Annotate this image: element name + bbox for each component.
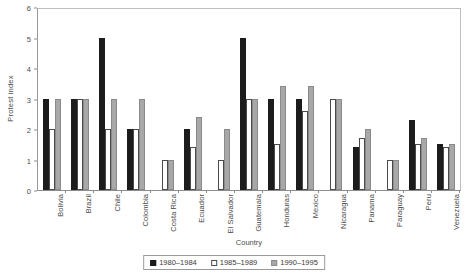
chart-legend: 1980–19841985–19891990–1995 — [143, 255, 325, 270]
x-axis-tick-label: Bolivia — [56, 194, 65, 217]
bar-group — [66, 9, 94, 190]
bar-group — [263, 9, 291, 190]
legend-label: 1980–1984 — [159, 258, 197, 267]
bar-group — [122, 9, 150, 190]
y-axis-tick-1: 1 — [27, 156, 31, 165]
bar-group — [151, 9, 179, 190]
x-axis-tick-9: Mexico — [291, 194, 319, 238]
legend-swatch-icon — [211, 260, 217, 266]
legend-item[interactable]: 1990–1995 — [271, 258, 318, 267]
x-axis-tick-14: Venezuela — [433, 194, 461, 238]
bar — [336, 99, 342, 191]
legend-item[interactable]: 1985–1989 — [211, 258, 258, 267]
y-axis-tick-6: 6 — [27, 4, 31, 13]
y-axis-tick-4: 4 — [27, 65, 31, 74]
x-axis-tick-label: Nicaragua — [338, 194, 347, 229]
bars-layer — [38, 9, 460, 190]
legend-label: 1985–1989 — [220, 258, 258, 267]
x-axis-tick-2: Chile — [94, 194, 122, 238]
x-axis-tick-8: Honduras — [263, 194, 291, 238]
legend-label: 1990–1995 — [280, 258, 318, 267]
x-axis-tick-3: Colombia — [122, 194, 150, 238]
x-axis-tick-7: Guatemala — [235, 194, 263, 238]
x-axis-tick-label: Paraguay — [395, 194, 404, 227]
x-axis-tick-label: El Salvador — [225, 194, 234, 233]
bar — [111, 99, 117, 191]
bar — [393, 160, 399, 191]
bar — [139, 99, 145, 191]
y-axis-title-label: Protest index — [6, 75, 15, 121]
bar — [421, 138, 427, 190]
x-axis-tick-6: El Salvador — [207, 194, 235, 238]
x-axis-tick-1: Brazil — [65, 194, 93, 238]
x-axis-tick-label: Chile — [112, 194, 121, 212]
bar — [308, 86, 314, 190]
bar — [168, 160, 174, 191]
bar — [83, 99, 89, 191]
x-axis-tick-13: Peru — [404, 194, 432, 238]
y-axis-tick-5: 5 — [27, 34, 31, 43]
x-axis-title: Country — [37, 238, 461, 247]
x-axis-tick-label: Costa Rica — [169, 194, 178, 232]
y-axis-tick-3: 3 — [27, 95, 31, 104]
x-axis-tick-label: Ecuador — [197, 194, 206, 223]
protest-index-bar-chart: Protest index 0123456 BoliviaBrazilChile… — [0, 0, 468, 278]
x-axis-tick-label: Venezuela — [451, 194, 460, 230]
x-axis-tick-10: Nicaragua — [320, 194, 348, 238]
bar-group — [38, 9, 66, 190]
x-axis-tick-label: Colombia — [140, 194, 149, 226]
y-axis-tick-labels: 0123456 — [18, 8, 34, 191]
x-axis-tick-11: Panama — [348, 194, 376, 238]
bar-group — [319, 9, 347, 190]
x-axis-tick-0: Bolivia — [37, 194, 65, 238]
bar-group — [376, 9, 404, 190]
bar — [196, 117, 202, 190]
x-axis-tick-label: Mexico — [310, 194, 319, 218]
bar — [365, 129, 371, 190]
x-axis-tick-4: Costa Rica — [150, 194, 178, 238]
plot-area — [37, 8, 461, 191]
legend-swatch-icon — [271, 260, 277, 266]
x-axis-tick-label: Guatemala — [253, 194, 262, 232]
y-axis-tick-2: 2 — [27, 126, 31, 135]
x-axis-tick-label: Brazil — [84, 194, 93, 213]
x-axis-tick-label: Honduras — [282, 194, 291, 227]
legend-item[interactable]: 1980–1984 — [150, 258, 197, 267]
bar-group — [432, 9, 460, 190]
bar-group — [291, 9, 319, 190]
y-axis-title: Protest index — [2, 0, 18, 196]
bar-group — [207, 9, 235, 190]
bar-group — [179, 9, 207, 190]
bar — [280, 86, 286, 190]
bar — [55, 99, 61, 191]
bar — [224, 129, 230, 190]
x-axis-tick-12: Paraguay — [376, 194, 404, 238]
x-axis-tick-label: Panama — [367, 194, 376, 223]
bar-group — [94, 9, 122, 190]
x-axis-tick-5: Ecuador — [178, 194, 206, 238]
bar — [449, 144, 455, 190]
bar — [252, 99, 258, 191]
x-axis-tick-label: Peru — [423, 194, 432, 210]
x-axis-tick-labels: BoliviaBrazilChileColombiaCosta RicaEcua… — [37, 194, 461, 238]
bar-group — [404, 9, 432, 190]
bar-group — [348, 9, 376, 190]
legend-swatch-icon — [150, 260, 156, 266]
y-axis-tick-0: 0 — [27, 187, 31, 196]
bar-group — [235, 9, 263, 190]
